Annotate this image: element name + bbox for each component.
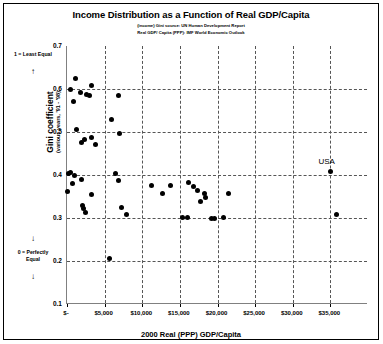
y-axis-tick-label: 0.2 [36,257,62,264]
data-point [73,76,78,81]
x-axis-tick-mark [67,304,68,307]
y-axis-title-sub: (various years, '91 - '98) [55,67,61,177]
data-point [89,83,94,88]
y-axis-top-note: 1 = Least Equal [10,51,56,58]
data-point [83,210,88,215]
x-axis-tick-mark [142,304,143,307]
plot-area: USA [66,46,367,304]
data-point [149,183,154,188]
y-axis-title-main: Gini coefficient [45,91,55,152]
data-point [78,90,83,95]
data-point [221,215,226,220]
chart-frame: Income Distribution as a Function of Rea… [3,3,379,340]
point-label-usa: USA [318,157,334,166]
data-point [70,181,75,186]
data-point [87,93,92,98]
x-axis-tick-mark [255,304,256,307]
x-axis-tick-label: $35,000 [299,310,359,316]
data-point [89,192,94,197]
data-point [124,212,129,217]
data-point [79,140,84,145]
chart-title: Income Distribution as a Function of Rea… [4,9,378,20]
data-point [93,142,98,147]
gridline-vertical [218,46,219,303]
data-point [328,169,333,174]
data-point [185,215,190,220]
gridline-vertical [330,46,331,303]
y-axis-tick-label: 0.7 [36,42,62,49]
y-axis-bottom-arrow-lower: ↓ [10,273,56,281]
data-point [203,195,208,200]
data-point [72,173,77,178]
x-axis-tick-mark [293,304,294,307]
y-axis-tick-label: 0.1 [36,300,62,307]
chart-screenshot: Income Distribution as a Function of Rea… [0,0,383,344]
data-point [116,178,121,183]
gridline-vertical [105,46,106,303]
data-point [65,189,70,194]
data-point [71,99,76,104]
x-axis-tick-mark [180,304,181,307]
y-axis-tick-label: 0.3 [36,214,62,221]
y-axis-tick-label: 0.4 [36,171,62,178]
data-point [113,171,118,176]
x-axis-tick-mark [218,304,219,307]
x-axis-title: 2000 Real (PPP) GDP/Capita [4,330,378,339]
gridline-vertical [142,46,143,303]
data-point [198,199,203,204]
data-point [226,191,231,196]
gridline-vertical [255,46,256,303]
data-point [79,177,84,182]
y-axis-tick-label: 0.6 [36,85,62,92]
x-axis-tick-mark [105,304,106,307]
x-axis-tick-mark [330,304,331,307]
gridline-vertical [293,46,294,303]
chart-subtitle-gini-source: (income) Gini source: UN Human Developme… [4,23,378,28]
data-point [119,205,124,210]
gridline-vertical [180,46,181,303]
y-axis-tick-label: 0.5 [36,128,62,135]
data-point [68,87,73,92]
chart-subtitle-gdp-source: Real GDP/ Capita (PPP): IMF World Econom… [4,30,378,35]
data-point [195,188,200,193]
y-axis-title: Gini coefficient (various years, '91 - '… [45,67,61,177]
data-point [186,180,191,185]
data-point [116,93,121,98]
data-point [168,183,173,188]
data-point [212,216,217,221]
data-point [334,212,339,217]
data-point [109,117,114,122]
y-axis-top-arrow: ↑ [10,68,56,76]
data-point [89,135,94,140]
y-axis-bottom-arrow-upper: ↓ [10,235,56,243]
data-point [160,191,165,196]
data-point [74,127,79,132]
data-point [117,131,122,136]
